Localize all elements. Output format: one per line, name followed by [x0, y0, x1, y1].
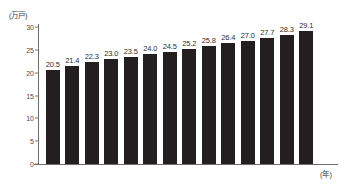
bar-value-label: 21.4: [65, 56, 79, 65]
bar: [299, 31, 313, 164]
bar-value-label: 26.4: [221, 33, 235, 42]
bar-value-label: 24.5: [163, 42, 177, 51]
bar-value-label: 20.5: [46, 60, 60, 69]
bar: [182, 49, 196, 164]
y-axis-tick-label: 30: [26, 24, 34, 31]
bar: [221, 43, 235, 164]
y-axis-unit-label: (万戸): [9, 9, 27, 20]
bar-chart: (万戸) 051015202530 20.5200521.4200622.320…: [0, 0, 354, 189]
bar: [65, 66, 79, 164]
y-axis-tick-label: 5: [30, 138, 34, 145]
bar: [46, 70, 60, 164]
x-axis-line: [34, 164, 338, 165]
bar-value-label: 28.3: [280, 25, 294, 34]
bar: [202, 46, 216, 164]
bar: [85, 62, 99, 164]
plot-area: 051015202530 20.5200521.4200622.3200723.…: [38, 27, 338, 164]
x-axis-unit-label: (年): [320, 168, 332, 179]
bar: [124, 57, 138, 164]
bar: [104, 59, 118, 164]
bar-value-label: 24.0: [143, 44, 157, 53]
bar-value-label: 25.2: [182, 39, 196, 48]
bar: [143, 54, 157, 164]
y-axis-tick-label: 0: [30, 161, 34, 168]
bar-value-label: 25.8: [202, 36, 216, 45]
y-axis-tick-label: 20: [26, 69, 34, 76]
bar-series: 20.5200521.4200622.3200723.0200823.52009…: [38, 27, 338, 164]
bar: [280, 35, 294, 164]
bar: [260, 38, 274, 164]
bar-value-label: 23.0: [104, 49, 118, 58]
bar: [241, 41, 255, 164]
y-axis-tick-label: 10: [26, 115, 34, 122]
y-axis-tick-label: 15: [26, 92, 34, 99]
bar-value-label: 27.7: [260, 28, 274, 37]
bar-value-label: 29.1: [299, 21, 313, 30]
y-axis-tick-label: 25: [26, 46, 34, 53]
bar-value-label: 27.0: [241, 31, 255, 40]
bar: [163, 52, 177, 164]
bar-value-label: 23.5: [124, 47, 138, 56]
bar-value-label: 22.3: [85, 52, 99, 61]
